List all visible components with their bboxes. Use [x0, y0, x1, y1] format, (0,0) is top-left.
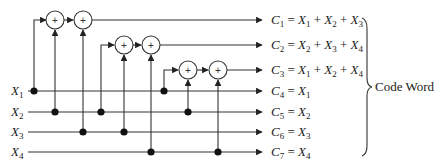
equation-c4: C4 = X1 [271, 83, 310, 100]
encoder-diagram: + + + + + + X1 X2 [0, 0, 436, 166]
c3-branch: + + [160, 61, 262, 156]
right-brace-icon [362, 18, 372, 156]
plus-icon: + [52, 15, 58, 26]
label-x2: X2 [10, 104, 23, 121]
plus-icon: + [148, 40, 154, 51]
plus-icon: + [185, 65, 191, 76]
equation-c7: C7 = X4 [271, 144, 311, 161]
c1-branch: + + [30, 11, 262, 136]
input-wires [28, 91, 262, 152]
plus-icon: + [215, 65, 221, 76]
equation-c6: C6 = X3 [271, 124, 311, 141]
output-equations: C1 = X1 + X2 + X3 C2 = X2 + X3 + X4 C3 =… [271, 12, 364, 161]
equation-c2: C2 = X2 + X3 + X4 [271, 37, 364, 54]
label-x1: X1 [10, 83, 23, 100]
input-labels: X1 X2 X3 X4 [10, 83, 24, 161]
equation-c3: C3 = X1 + X2 + X4 [271, 62, 364, 79]
plus-icon: + [121, 40, 127, 51]
equation-c5: C5 = X2 [271, 104, 310, 121]
c2-branch: + + [97, 36, 262, 156]
plus-icon: + [80, 15, 86, 26]
equation-c1: C1 = X1 + X2 + X3 [271, 12, 364, 29]
label-x4: X4 [10, 144, 24, 161]
code-word-label: Code Word [375, 79, 435, 94]
label-x3: X3 [10, 124, 24, 141]
